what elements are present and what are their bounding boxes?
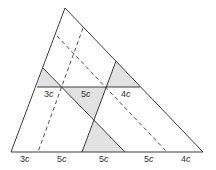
inner-label-4c: 4c xyxy=(121,89,131,99)
base-label-3c: 3c xyxy=(20,154,30,164)
inner-label-5c: 5c xyxy=(81,89,91,99)
base-label-5c-second: 5c xyxy=(99,154,109,164)
base-label-4c: 4c xyxy=(181,154,191,164)
base-label-5c-first: 5c xyxy=(57,154,67,164)
base-label-5c-third: 5c xyxy=(144,154,154,164)
inner-label-3c: 3c xyxy=(44,89,54,99)
triangle-diagram xyxy=(0,0,216,170)
